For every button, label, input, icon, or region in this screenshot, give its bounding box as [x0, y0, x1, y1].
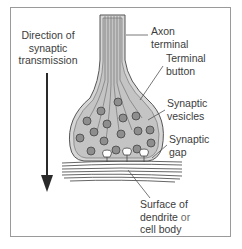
direction-label: Direction of synaptic transmission [14, 29, 82, 67]
label-synaptic-gap: Synaptic gap [169, 133, 209, 158]
label-dendrite-surface: Surface of dendrite or cell body [140, 198, 190, 236]
label-terminal-button: Terminal button [166, 52, 206, 77]
direction-arrow-icon [41, 73, 53, 192]
label-synaptic-vesicles: Synaptic vesicles [167, 97, 207, 122]
label-axon-terminal: Axon terminal [151, 25, 188, 50]
dendrite-surface [62, 161, 182, 182]
